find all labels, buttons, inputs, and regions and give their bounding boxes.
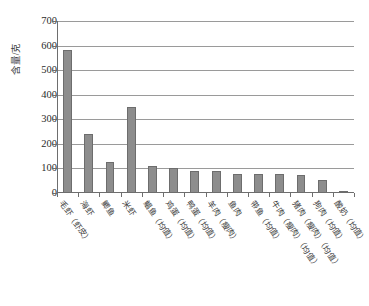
x-axis-category-label: 鲫鱼 [100,199,117,218]
x-axis-labels: 毛虾（虾皮）海虾鲫鱼米虾鲳鱼（均值）鸡蛋（均值）鸭蛋（均值）羊肉（瘦肉）鱼肉带鱼… [0,0,369,306]
bar-chart: 含量/克 7006005004003002001000 毛虾（虾皮）海虾鲫鱼米虾… [0,0,369,306]
x-axis-category-label: 米虾 [121,199,138,218]
x-axis-category-label: 鱼肉 [227,199,244,218]
x-axis-category-label: 海虾 [78,199,95,218]
